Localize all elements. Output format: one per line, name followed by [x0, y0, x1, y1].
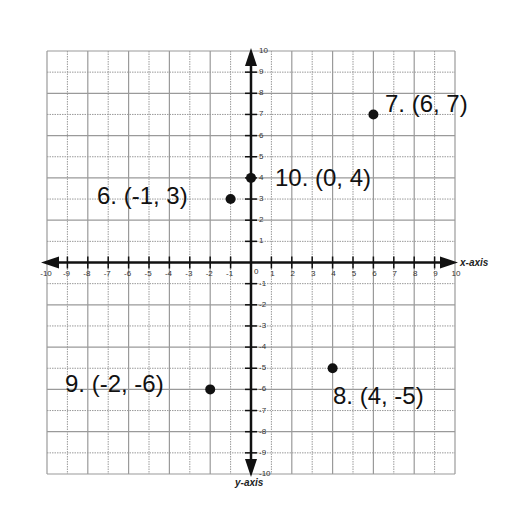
x-tick-label: 10 — [452, 270, 461, 278]
x-axis-title: x-axis — [460, 258, 488, 268]
point-9 — [205, 384, 215, 394]
x-tick-label: 7 — [393, 270, 397, 278]
y-tick-label: -8 — [259, 428, 266, 436]
y-tick-label: 9 — [259, 68, 263, 76]
point-7 — [368, 109, 378, 119]
point-8 — [328, 363, 338, 373]
point-label-6: 6. (-1, 3) — [97, 184, 188, 208]
y-tick-label: -5 — [259, 364, 266, 372]
y-tick-label: -6 — [259, 385, 266, 393]
y-tick-label: -2 — [259, 301, 266, 309]
y-tick-label: -4 — [259, 343, 266, 351]
point-label-10: 10. (0, 4) — [275, 166, 371, 190]
y-tick-label: 5 — [259, 153, 263, 161]
x-tick-label: 1 — [270, 270, 274, 278]
x-tick-label: -9 — [63, 270, 70, 278]
x-tick-label: -7 — [104, 270, 111, 278]
y-axis-title: y-axis — [235, 478, 263, 488]
x-tick-label: 8 — [413, 270, 417, 278]
x-tick-label: -1 — [226, 270, 233, 278]
x-tick-label: -3 — [185, 270, 192, 278]
x-tick-label: -10 — [40, 270, 52, 278]
y-tick-label: 10 — [259, 47, 268, 55]
point-6 — [226, 194, 236, 204]
y-tick-label: 7 — [259, 110, 263, 118]
x-tick-label: 4 — [331, 270, 335, 278]
x-tick-label: 0 — [254, 268, 258, 276]
y-tick-label: 2 — [259, 216, 263, 224]
point-label-8: 8. (4, -5) — [333, 384, 424, 408]
x-tick-label: 2 — [291, 270, 295, 278]
x-tick-label: 6 — [372, 270, 376, 278]
y-tick-label: 8 — [259, 89, 263, 97]
coordinate-plane — [0, 0, 515, 522]
y-tick-label: -7 — [259, 407, 266, 415]
y-tick-label: -3 — [259, 322, 266, 330]
x-tick-label: 3 — [311, 270, 315, 278]
x-axis-left-arrow-icon — [41, 257, 59, 269]
y-tick-label: -9 — [259, 449, 266, 457]
x-tick-label: -4 — [165, 270, 172, 278]
y-tick-label: 6 — [259, 132, 263, 140]
point-10 — [246, 173, 256, 183]
x-tick-label: -2 — [206, 270, 213, 278]
x-tick-label: -6 — [124, 270, 131, 278]
x-tick-label: 5 — [352, 270, 356, 278]
point-label-7: 7. (6, 7) — [385, 92, 468, 116]
y-tick-label: -1 — [259, 280, 266, 288]
point-label-9: 9. (-2, -6) — [65, 372, 164, 396]
y-tick-label: 4 — [259, 174, 263, 182]
y-tick-label: 1 — [259, 237, 263, 245]
x-tick-label: -5 — [145, 270, 152, 278]
x-tick-label: 9 — [433, 270, 437, 278]
x-tick-label: -8 — [83, 270, 90, 278]
y-tick-label: 3 — [259, 195, 263, 203]
